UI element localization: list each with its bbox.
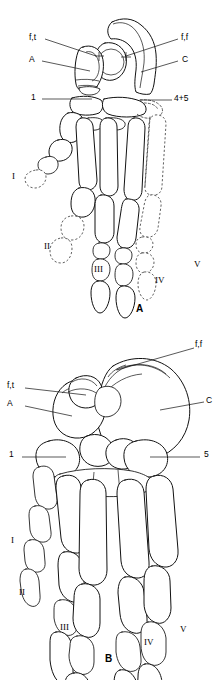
digit-numeral-b-ii: II	[19, 588, 25, 597]
digit-numeral-a-i: I	[12, 172, 15, 181]
digit-numeral-a-ii: II	[44, 242, 50, 251]
label-45-a: 4+5	[174, 94, 188, 103]
digit-numeral-a-iii: III	[94, 265, 103, 274]
label-ft-a: f,t	[29, 33, 36, 42]
panel-letter-a: A	[136, 303, 143, 314]
label-ft-b: f,t	[7, 381, 14, 390]
anatomical-figure: f,t A 1 f,f C 4+5 I II III IV V A	[0, 0, 222, 680]
label-c-b: C	[206, 396, 212, 405]
digit-numeral-b-iv: IV	[144, 638, 154, 647]
label-1-b: 1	[9, 450, 14, 459]
panel-letter-b: B	[105, 653, 112, 664]
digit-numeral-b-v: V	[180, 625, 187, 634]
digit-numeral-a-v: V	[194, 260, 201, 269]
panel-a-drawing	[0, 0, 222, 340]
digit-numeral-b-i: I	[11, 536, 14, 545]
digit-numeral-a-iv: IV	[155, 276, 165, 285]
label-ff-a: f,f	[181, 33, 188, 42]
label-1-a: 1	[31, 93, 36, 102]
label-c-a: C	[182, 55, 188, 64]
label-a-b: A	[7, 399, 13, 408]
label-ff-b: f,f	[195, 340, 202, 349]
label-a-a: A	[29, 55, 35, 64]
label-5-b: 5	[204, 450, 209, 459]
digit-numeral-b-iii: III	[60, 623, 69, 632]
panel-b-drawing	[0, 340, 222, 680]
